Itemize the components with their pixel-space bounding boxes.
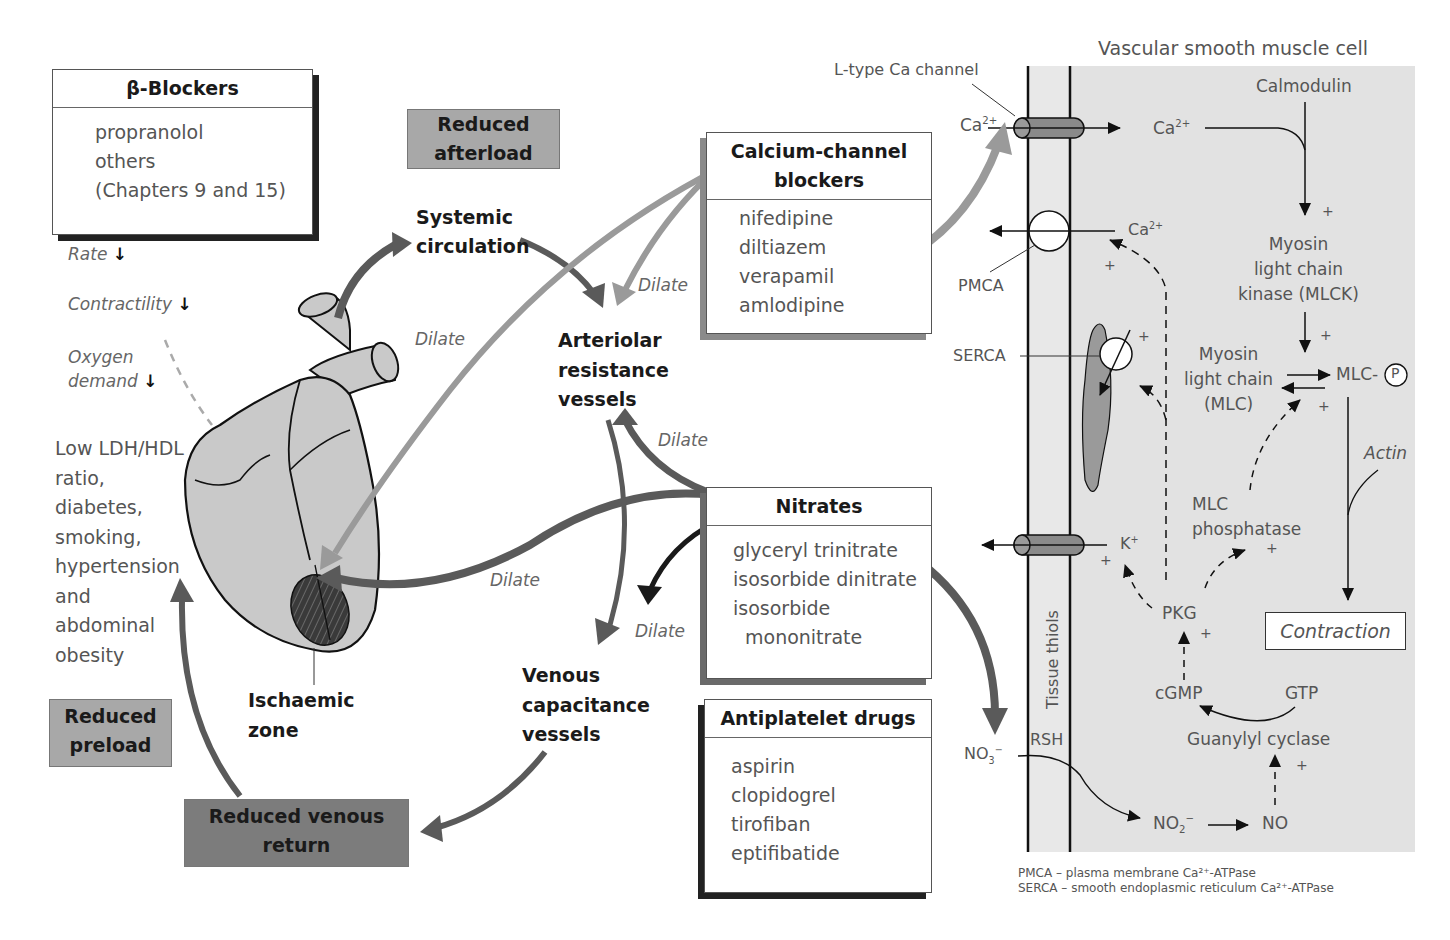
calcium-channel-blockers-box: Calcium-channel blockers nifedipine dilt…: [706, 132, 932, 334]
beta-blockers-title: β-Blockers: [53, 70, 312, 108]
contraction-box: Contraction: [1265, 612, 1406, 650]
drug-item: isosorbide dinitrate: [733, 565, 931, 594]
systemic-circulation-label: Systemic circulation: [416, 203, 529, 261]
serca-pump-icon: [1100, 338, 1132, 370]
heart-illustration: [185, 289, 403, 685]
drug-item: propranolol: [95, 118, 312, 147]
mlc-phosphatase-label: MLC phosphatase: [1192, 492, 1301, 542]
serca-label: SERCA: [953, 346, 1006, 365]
phosphate-p-icon: P: [1391, 365, 1399, 381]
legend: PMCA – plasma membrane Ca²⁺-ATPase SERCA…: [1018, 866, 1334, 896]
mlc-label: Myosin light chain (MLC): [1184, 342, 1273, 417]
no3-label: NO3−: [964, 744, 1003, 766]
legend-pmca: PMCA – plasma membrane Ca²⁺-ATPase: [1018, 866, 1334, 881]
gtp-label: GTP: [1285, 683, 1318, 703]
effect-oxygen-demand: Oxygen demand ↓: [68, 345, 157, 393]
reduced-preload-box: Reduced preload: [49, 699, 172, 767]
guanylyl-cyclase-label: Guanylyl cyclase: [1187, 729, 1330, 749]
plus-sign: +: [1200, 625, 1212, 641]
rsh-label: RSH: [1030, 730, 1063, 749]
drug-item: aspirin: [731, 752, 931, 781]
down-arrow-icon: ↓: [143, 371, 157, 391]
mlc-phosphorylated-label: MLC-: [1336, 364, 1378, 384]
drug-item: diltiazem: [739, 233, 931, 262]
plus-sign: +: [1266, 540, 1278, 556]
drug-item: nifedipine: [739, 204, 931, 233]
dilate-label: Dilate: [415, 329, 465, 349]
mlck-label: Myosin light chain kinase (MLCK): [1238, 232, 1359, 307]
calmodulin-label: Calmodulin: [1256, 76, 1352, 96]
actin-label: Actin: [1364, 443, 1407, 463]
pkg-label: PKG: [1162, 603, 1197, 623]
drug-item: others: [95, 147, 312, 176]
drug-item: glyceryl trinitrate: [733, 536, 931, 565]
plus-sign: +: [1320, 327, 1332, 343]
plus-sign: +: [1138, 328, 1150, 344]
k-ion-label: K+: [1120, 534, 1139, 553]
dilate-label: Dilate: [635, 621, 685, 641]
drug-item: verapamil: [739, 262, 931, 291]
effect-rate: Rate ↓: [68, 244, 127, 264]
ca-extracellular-label: Ca2+: [960, 115, 997, 135]
plus-sign: +: [1318, 398, 1330, 414]
cell-title: Vascular smooth muscle cell: [1098, 37, 1368, 59]
l-type-channel-label: L-type Ca channel: [834, 60, 979, 79]
drug-item: eptifibatide: [731, 839, 931, 868]
antiplatelet-drugs-box: Antiplatelet drugs aspirin clopidogrel t…: [704, 699, 932, 893]
venous-capacitance-vessels-label: Venous capacitance vessels: [522, 661, 650, 750]
drug-item: amlodipine: [739, 291, 931, 320]
plus-sign: +: [1322, 203, 1334, 219]
arteriolar-resistance-vessels-label: Arteriolar resistance vessels: [558, 326, 669, 415]
ca-intracellular-label: Ca2+: [1153, 118, 1190, 138]
ischaemic-zone-label: Ischaemic zone: [248, 686, 354, 745]
down-arrow-icon: ↓: [113, 244, 127, 264]
drug-item: clopidogrel: [731, 781, 931, 810]
no2-label: NO2−: [1153, 813, 1194, 835]
pmca-label: PMCA: [958, 276, 1004, 295]
plus-sign: +: [1104, 257, 1116, 273]
risk-factors-list: Low LDH/HDL ratio, diabetes, smoking, hy…: [55, 434, 184, 670]
plus-sign: +: [1100, 552, 1112, 568]
ca-pmca-label: Ca2+: [1128, 220, 1163, 239]
plus-sign: +: [1296, 757, 1308, 773]
effect-contractility: Contractility ↓: [68, 294, 192, 314]
reduced-venous-return-box: Reduced venous return: [184, 799, 409, 867]
cgmp-label: cGMP: [1155, 683, 1202, 703]
drug-item: isosorbide: [733, 594, 931, 623]
dilate-label: Dilate: [490, 570, 540, 590]
drug-item: tirofiban: [731, 810, 931, 839]
nitrates-box: Nitrates glyceryl trinitrate isosorbide …: [706, 487, 932, 679]
legend-serca: SERCA – smooth endoplasmic reticulum Ca²…: [1018, 881, 1334, 896]
drug-item: (Chapters 9 and 15): [95, 176, 312, 205]
reduced-afterload-box: Reduced afterload: [407, 109, 560, 169]
beta-blockers-box: β-Blockers propranolol others (Chapters …: [52, 69, 313, 235]
dilate-label: Dilate: [638, 275, 688, 295]
dilate-label: Dilate: [658, 430, 708, 450]
tissue-thiols-label: Tissue thiols: [1043, 610, 1062, 710]
down-arrow-icon: ↓: [177, 294, 191, 314]
drug-item: mononitrate: [733, 623, 931, 652]
no-label: NO: [1262, 813, 1288, 833]
